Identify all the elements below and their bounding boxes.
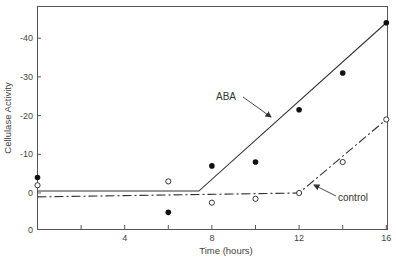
open-circle-icon: [340, 159, 345, 164]
x-tick-label: 4: [122, 233, 127, 243]
arrow-icon: [314, 185, 336, 196]
control-fit-line: [38, 119, 387, 196]
filled-circle-icon: [253, 159, 259, 165]
data-points: [35, 20, 389, 215]
fit-lines: [38, 23, 387, 197]
x-tick-label: 8: [209, 233, 214, 243]
y-tick-label: -40: [20, 33, 33, 43]
open-circle-icon: [384, 117, 389, 122]
filled-circle-icon: [384, 20, 390, 26]
filled-circle-icon: [296, 107, 302, 113]
filled-circle-icon: [166, 210, 172, 216]
filled-circle-icon: [35, 175, 41, 181]
open-circle-icon: [166, 179, 171, 184]
open-circle-icon: [209, 200, 214, 205]
y-tick-label: -30: [20, 72, 33, 82]
y-tick-label: -20: [20, 111, 33, 121]
x-axis-title: Time (hours): [199, 245, 253, 256]
y-tick-label: -10: [20, 149, 33, 159]
arrow-icon: [243, 97, 271, 117]
cellulase-activity-chart: 481216 -40-30-20-1000 ABAcontrol Time (h…: [0, 0, 396, 265]
open-circle-icon: [253, 196, 258, 201]
x-tick-label: 16: [381, 233, 391, 243]
filled-circle-icon: [340, 70, 346, 76]
open-circle-icon: [35, 183, 40, 188]
aba-label: ABA: [216, 91, 236, 102]
y-axis-title: Cellulase Activity: [2, 82, 13, 154]
filled-circle-icon: [209, 163, 215, 169]
y-tick-label: 0: [28, 188, 33, 198]
control-label: control: [338, 192, 368, 203]
y-tick-label: 0: [28, 225, 33, 235]
open-circle-icon: [297, 190, 302, 195]
x-tick-label: 12: [294, 233, 304, 243]
x-axis-ticks: 481216: [81, 225, 391, 243]
